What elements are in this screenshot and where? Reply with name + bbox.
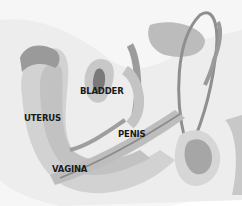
label-vagina: VAGINA [52,164,87,174]
label-uterus: UTERUS [24,113,61,123]
diagram-illustration [0,0,242,206]
anatomy-diagram: BLADDER UTERUS PENIS VAGINA [0,0,242,206]
label-penis: PENIS [118,129,145,139]
label-bladder: BLADDER [80,86,124,96]
